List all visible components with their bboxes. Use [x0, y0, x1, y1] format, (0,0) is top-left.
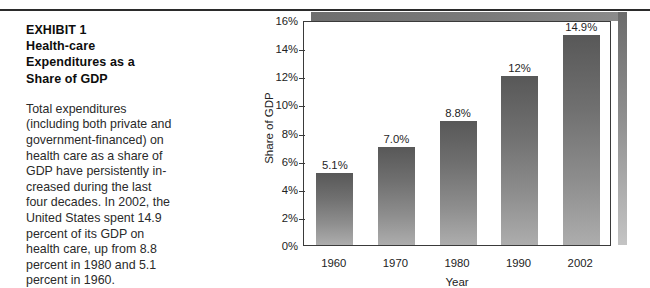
y-axis-tick-label: 0%: [282, 240, 298, 252]
x-axis-tick-label: 1960: [304, 257, 364, 269]
bar-value-label: 8.8%: [428, 107, 488, 119]
bar: [378, 147, 415, 245]
x-axis-tick-label: 1970: [365, 257, 425, 269]
bar: [501, 76, 538, 245]
exhibit-text-column: EXHIBIT 1Health-careExpenditures as aSha…: [26, 22, 218, 288]
exhibit-description: Total expenditures(including both privat…: [26, 102, 218, 288]
exhibit-description-line: creased during the last: [26, 180, 218, 196]
bar: [563, 35, 600, 245]
y-axis-tick-label: 4%: [282, 184, 298, 196]
y-axis-tick-label: 10%: [275, 99, 298, 111]
exhibit-description-line: health care as a share of: [26, 149, 218, 165]
exhibit-description-line: government-financed) on: [26, 133, 218, 149]
y-axis-tick-labels: 0%2%4%6%8%10%12%14%16%: [250, 14, 298, 254]
bar-value-label: 5.1%: [305, 159, 365, 171]
y-axis-tick-label: 2%: [282, 212, 298, 224]
plot-wrapper: 5.1%7.0%8.8%12%14.9%: [303, 14, 633, 254]
bar-series: 5.1%7.0%8.8%12%14.9%: [304, 22, 610, 245]
y-axis-tick-label: 16%: [275, 15, 298, 27]
y-axis-tick-label: 12%: [275, 71, 298, 83]
exhibit-description-line: percent in 1960.: [26, 273, 218, 288]
x-axis-tick-label: 2002: [550, 257, 610, 269]
bar-value-label: 14.9%: [551, 21, 611, 33]
x-axis-tick-labels: 19601970198019902002: [303, 257, 613, 273]
y-axis-tick-label: 6%: [282, 156, 298, 168]
exhibit-description-line: (including both private and: [26, 117, 218, 133]
exhibit-title-line: Share of GDP: [26, 71, 218, 87]
exhibit-description-line: percent of its GDP on: [26, 227, 218, 243]
top-divider: [0, 9, 650, 11]
bar-value-label: 7.0%: [366, 133, 426, 145]
y-axis-tick-label: 8%: [282, 128, 298, 140]
bar-value-label: 12%: [490, 62, 550, 74]
plot-area: 5.1%7.0%8.8%12%14.9%: [303, 21, 611, 246]
exhibit-title-line: EXHIBIT 1: [26, 22, 218, 38]
plot-shadow-right: [618, 12, 627, 245]
exhibit-description-line: four decades. In 2002, the: [26, 195, 218, 211]
exhibit-title-line: Expenditures as a: [26, 54, 218, 70]
exhibit-title: EXHIBIT 1Health-careExpenditures as aSha…: [26, 22, 218, 87]
x-axis-tick-label: 1980: [427, 257, 487, 269]
exhibit-description-line: Total expenditures: [26, 102, 218, 118]
bar-chart: Share of GDP 0%2%4%6%8%10%12%14%16% 5.1%…: [228, 14, 640, 282]
exhibit-title-line: Health-care: [26, 38, 218, 54]
exhibit-description-line: GDP have persistently in-: [26, 164, 218, 180]
exhibit-description-line: health care, up from 8.8: [26, 242, 218, 258]
x-axis-title: Year: [303, 276, 611, 288]
exhibit-description-line: United States spent 14.9: [26, 211, 218, 227]
y-axis-tick-label: 14%: [275, 43, 298, 55]
bar: [440, 121, 477, 245]
bar: [316, 173, 353, 245]
x-axis-tick-label: 1990: [489, 257, 549, 269]
plot-shadow-top: [311, 12, 627, 21]
exhibit-panel: EXHIBIT 1Health-careExpenditures as aSha…: [0, 0, 650, 288]
exhibit-description-line: percent in 1980 and 5.1: [26, 258, 218, 274]
